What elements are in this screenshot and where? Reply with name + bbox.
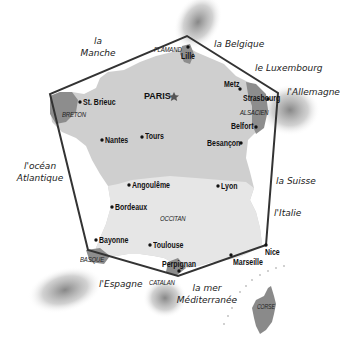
label-marseille: Marseille — [233, 258, 263, 267]
label-nantes: Nantes — [105, 136, 128, 145]
label-mediterranee: la mer Méditerranée — [175, 284, 239, 305]
label-angouleme: Angoulême — [132, 181, 170, 190]
label-perpignan: Perpignan — [162, 260, 196, 269]
label-corse: CORSE — [257, 304, 275, 311]
label-strasbourg: Strasbourg — [243, 94, 280, 103]
label-st-brieuc: St. Brieuc — [83, 98, 116, 107]
label-breton: BRETON — [62, 111, 86, 119]
label-metz: Metz — [224, 80, 239, 89]
label-nice: Nice — [265, 248, 280, 257]
label-toulouse: Toulouse — [153, 241, 183, 250]
label-bordeaux: Bordeaux — [115, 203, 147, 212]
label-line: Atlantique — [14, 174, 66, 183]
label-alsacien: ALSACIEN — [240, 109, 268, 117]
label-luxembourg: le Luxembourg — [255, 64, 323, 73]
label-line: la mer — [175, 284, 239, 293]
label-occitan: OCCITAN — [160, 215, 185, 223]
label-espagne: l'Espagne — [99, 280, 143, 289]
label-italie: l'Italie — [274, 209, 301, 218]
label-basque: BASQUE — [80, 256, 104, 264]
label-allemagne: l'Allemagne — [287, 88, 340, 97]
label-paris: PARIS — [144, 92, 171, 101]
label-suisse: la Suisse — [276, 177, 316, 186]
label-lyon: Lyon — [221, 182, 237, 191]
label-belfort: Belfort — [231, 122, 253, 131]
label-flamand: FLAMAND — [154, 46, 182, 54]
label-belgique: la Belgique — [214, 40, 264, 49]
label-besancon: Besançon — [207, 139, 240, 148]
label-line: l'océan — [14, 162, 66, 171]
label-tours: Tours — [145, 132, 164, 141]
label-bayonne: Bayonne — [99, 236, 128, 245]
label-la-manche: la Manche — [76, 37, 120, 58]
label-line: Manche — [76, 49, 120, 58]
label-ocean-atlantique: l'océan Atlantique — [14, 162, 66, 183]
label-lille: Lille — [181, 52, 195, 61]
label-line: la — [76, 37, 120, 46]
label-catalan: CATALAN — [149, 279, 175, 287]
label-line: Méditerranée — [175, 296, 239, 305]
